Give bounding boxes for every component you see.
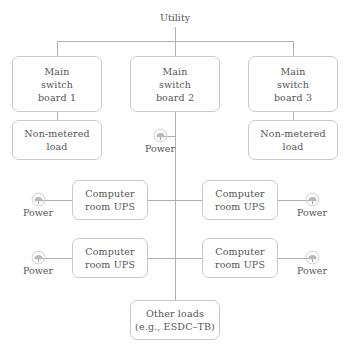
ups-upper-right-line1: Computer: [215, 187, 264, 200]
main-switchboard-1-line2: switch: [41, 78, 73, 91]
computer-room-ups-lower-left[interactable]: Computer room UPS: [72, 238, 148, 278]
ups-upper-right-line2: room UPS: [215, 200, 265, 213]
main-switchboard-1-line1: Main: [44, 65, 69, 78]
power-meter-lower-right[interactable]: Power: [286, 250, 338, 277]
power-meter-upper-right[interactable]: Power: [286, 192, 338, 219]
main-switchboard-3[interactable]: Main switch board 3: [248, 56, 338, 112]
power-meter-lower-right-label: Power: [297, 265, 327, 277]
non-metered-load-left-line1: Non-metered: [24, 127, 89, 140]
power-meter-lower-left[interactable]: Power: [12, 250, 64, 277]
main-switchboard-2-line3: board 2: [156, 91, 194, 104]
power-meter-icon: [31, 250, 46, 265]
ups-lower-left-line2: room UPS: [85, 258, 135, 271]
ups-upper-left-line2: room UPS: [85, 200, 135, 213]
power-meter-upper-left[interactable]: Power: [12, 192, 64, 219]
computer-room-ups-lower-right[interactable]: Computer room UPS: [202, 238, 278, 278]
power-meter-center-top[interactable]: Power: [134, 128, 186, 155]
other-loads-line2: (e.g., ESDC–TB): [135, 320, 215, 333]
non-metered-load-right-line2: load: [282, 140, 303, 153]
main-switchboard-3-line3: board 3: [274, 91, 312, 104]
main-switchboard-3-line1: Main: [280, 65, 305, 78]
other-loads-line1: Other loads: [146, 307, 204, 320]
non-metered-load-right[interactable]: Non-metered load: [248, 120, 338, 160]
power-meter-icon: [31, 192, 46, 207]
ups-lower-right-line1: Computer: [215, 245, 264, 258]
computer-room-ups-upper-right[interactable]: Computer room UPS: [202, 180, 278, 220]
ups-lower-right-line2: room UPS: [215, 258, 265, 271]
power-meter-upper-left-label: Power: [23, 207, 53, 219]
main-switchboard-1[interactable]: Main switch board 1: [12, 56, 102, 112]
utility-source-label: Utility: [145, 12, 205, 24]
non-metered-load-left[interactable]: Non-metered load: [12, 120, 102, 160]
power-meter-upper-right-label: Power: [297, 207, 327, 219]
power-meter-icon: [305, 250, 320, 265]
power-meter-icon: [153, 128, 168, 143]
other-loads-box[interactable]: Other loads (e.g., ESDC–TB): [130, 300, 220, 340]
main-switchboard-2[interactable]: Main switch board 2: [130, 56, 220, 112]
main-switchboard-2-line1: Main: [162, 65, 187, 78]
ups-lower-left-line1: Computer: [85, 245, 134, 258]
power-meter-lower-left-label: Power: [23, 265, 53, 277]
main-switchboard-1-line3: board 1: [38, 91, 76, 104]
computer-room-ups-upper-left[interactable]: Computer room UPS: [72, 180, 148, 220]
non-metered-load-right-line1: Non-metered: [260, 127, 325, 140]
main-switchboard-2-line2: switch: [159, 78, 191, 91]
one-line-diagram: Utility Main switch board 1 Main switch …: [0, 0, 350, 353]
power-meter-icon: [305, 192, 320, 207]
ups-upper-left-line1: Computer: [85, 187, 134, 200]
power-meter-center-top-label: Power: [145, 143, 175, 155]
non-metered-load-left-line2: load: [46, 140, 67, 153]
main-switchboard-3-line2: switch: [277, 78, 309, 91]
